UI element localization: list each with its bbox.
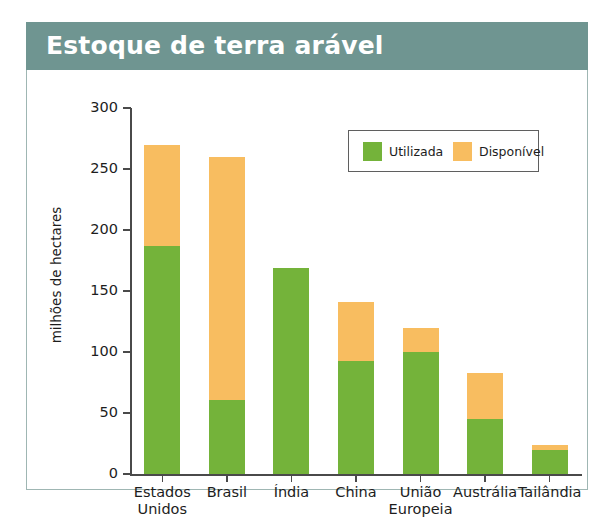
bar-segment-utilizada [209, 400, 245, 474]
y-axis-title: milhões de hectares [48, 150, 64, 400]
x-tick-mark [162, 474, 164, 482]
y-tick-mark [123, 229, 131, 231]
y-tick-label: 50 [78, 404, 118, 420]
bar-1 [144, 145, 180, 474]
legend-swatch-1 [363, 142, 382, 161]
page-title: Estoque de terra arável [46, 31, 384, 60]
x-tick-mark [484, 474, 486, 482]
y-tick-label: 0 [78, 465, 118, 481]
y-tick-mark [123, 168, 131, 170]
chart-panel: Estoque de terra arável milhões de hecta… [26, 22, 588, 490]
legend-label-2: Disponível [479, 144, 544, 159]
y-tick-mark [123, 351, 131, 353]
x-tick-mark [549, 474, 551, 482]
bar-3 [273, 268, 309, 474]
y-tick-label: 150 [78, 282, 118, 298]
x-tick-mark [291, 474, 293, 482]
chart-title-bar: Estoque de terra arável [26, 22, 588, 70]
bar-segment-disponivel [467, 373, 503, 419]
y-tick-mark [123, 290, 131, 292]
bar-segment-utilizada [532, 450, 568, 474]
y-tick-label: 200 [78, 221, 118, 237]
y-tick-mark [123, 412, 131, 414]
bar-segment-utilizada [403, 352, 439, 474]
bar-7 [532, 445, 568, 474]
bar-2 [209, 157, 245, 474]
x-axis-label-7: Tailândia [511, 484, 588, 501]
y-tick-mark [123, 107, 131, 109]
chart-legend: UtilizadaDisponível [348, 130, 539, 172]
bar-segment-disponivel [403, 328, 439, 352]
bar-segment-disponivel [338, 302, 374, 361]
bar-4 [338, 302, 374, 474]
x-tick-mark [355, 474, 357, 482]
legend-swatch-2 [453, 142, 472, 161]
y-tick-mark [123, 473, 131, 475]
legend-label-1: Utilizada [389, 144, 443, 159]
bar-5 [403, 328, 439, 474]
x-tick-mark [226, 474, 228, 482]
bar-segment-utilizada [144, 246, 180, 474]
bar-segment-utilizada [338, 361, 374, 474]
x-tick-mark [420, 474, 422, 482]
bar-segment-utilizada [467, 419, 503, 474]
y-tick-label: 300 [78, 99, 118, 115]
bar-segment-utilizada [273, 268, 309, 474]
bar-segment-disponivel [144, 145, 180, 246]
y-tick-label: 100 [78, 343, 118, 359]
bar-segment-disponivel [209, 157, 245, 400]
y-tick-label: 250 [78, 160, 118, 176]
bar-6 [467, 373, 503, 474]
